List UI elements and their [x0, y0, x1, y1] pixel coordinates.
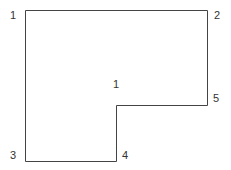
vertex-label-3: 3	[10, 149, 16, 161]
vertex-label-2: 2	[214, 9, 220, 21]
vertex-label-4: 4	[122, 149, 128, 161]
polygon-diagram: 1 2 5 4 3 1	[0, 0, 231, 170]
vertex-label-5: 5	[213, 92, 219, 104]
vertex-label-1: 1	[10, 9, 16, 21]
shape-label: 1	[113, 78, 119, 90]
